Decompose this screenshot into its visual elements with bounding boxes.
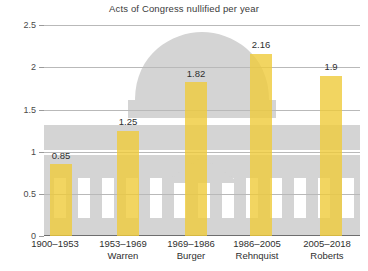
bar-value-label: 0.85: [39, 151, 83, 161]
gridline-2-5: [44, 25, 360, 26]
bar-1986-2005[interactable]: [250, 54, 272, 236]
chart-title: Acts of Congress nullified per year: [0, 3, 368, 14]
x-tick-name: Rehnquist: [218, 251, 296, 262]
chart-container: Acts of Congress nullified per year 2.5 …: [0, 0, 368, 271]
plot-area: 0.85 1.25 1.82 2.16 1.9: [44, 25, 360, 236]
y-tick-label: 1: [0, 148, 36, 157]
y-tick-label: 1.5: [0, 106, 36, 115]
y-tick-mark: [39, 236, 44, 237]
x-tick-range: 1986–2005: [218, 239, 296, 250]
bar-value-label: 1.9: [309, 62, 353, 72]
x-tick-group-1986-2005: 1986–2005 Rehnquist: [218, 239, 296, 262]
bar-2005-2018[interactable]: [320, 76, 342, 236]
bar-1953-1969[interactable]: [117, 131, 139, 237]
y-tick-label: 2: [0, 63, 36, 72]
y-tick-label: 2.5: [0, 21, 36, 30]
x-tick-group-1953-1969: 1953–1969 Warren: [84, 239, 162, 262]
bar-1969-1986[interactable]: [185, 82, 207, 236]
x-tick-range: 1900–1953: [16, 239, 94, 250]
x-tick-group-1900-1953: 1900–1953: [16, 239, 94, 251]
x-tick-name: Warren: [84, 251, 162, 262]
x-tick-group-2005-2018: 2005–2018 Roberts: [288, 239, 366, 262]
bar-value-label: 1.25: [106, 117, 150, 127]
x-tick-range: 2005–2018: [288, 239, 366, 250]
x-tick-range: 1953–1969: [84, 239, 162, 250]
y-axis: 2.5 2 1.5 1 0.5 0: [0, 0, 44, 271]
y-tick-label: 0.5: [0, 190, 36, 199]
bar-value-label: 2.16: [239, 40, 283, 50]
x-axis-labels: 1900–1953 1953–1969 Warren 1969–1986 Bur…: [0, 239, 368, 271]
bar-value-label: 1.82: [174, 69, 218, 79]
bar-1900-1953[interactable]: [50, 164, 72, 236]
x-tick-name: Roberts: [288, 251, 366, 262]
